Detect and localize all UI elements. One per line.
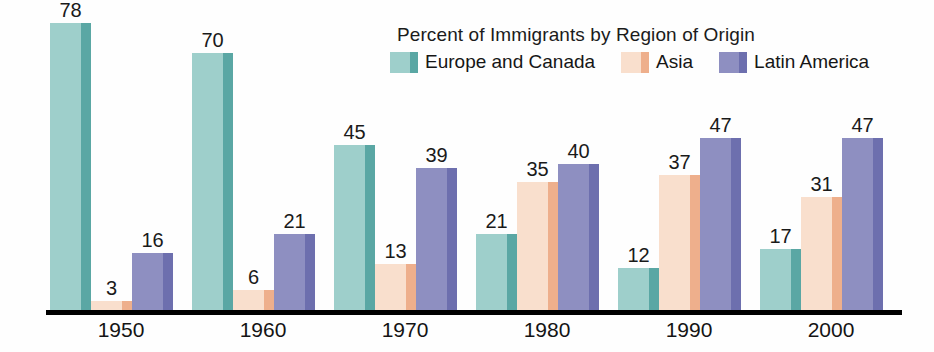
bar-value-label: 39: [425, 145, 447, 165]
bar-slot: 16: [132, 16, 173, 312]
bar-value-label: 21: [485, 211, 507, 231]
bar-slot: 17: [760, 16, 801, 312]
bar-edge: [163, 253, 173, 312]
bar-slot: 13: [375, 16, 416, 312]
bar-group-1990: 123747: [618, 16, 760, 312]
bar-value-label: 17: [769, 226, 791, 246]
bar-value-label: 35: [526, 159, 548, 179]
bar: 6: [233, 290, 274, 312]
bar-edge: [832, 197, 842, 312]
x-axis-baseline: [46, 310, 902, 315]
bar-slot: 31: [801, 16, 842, 312]
x-axis-tick-labels: 195019601970198019902000: [50, 318, 902, 342]
bar-group-1960: 70621: [192, 16, 334, 312]
bar-slot: 45: [334, 16, 375, 312]
bar-slot: 3: [91, 16, 132, 312]
bar: 40: [558, 164, 599, 312]
bar: 31: [801, 197, 842, 312]
bar-value-label: 6: [248, 267, 259, 287]
bar-slot: 21: [476, 16, 517, 312]
bar-edge: [406, 264, 416, 312]
year-label-2000: 2000: [760, 318, 902, 342]
bar-value-label: 12: [627, 245, 649, 265]
bar-slot: 70: [192, 16, 233, 312]
bar: 37: [659, 175, 700, 312]
bar-face: [760, 249, 791, 312]
bar-edge: [507, 234, 517, 312]
bar-face: [700, 138, 731, 312]
bar-edge: [365, 145, 375, 312]
year-label-1970: 1970: [334, 318, 476, 342]
bar-face: [416, 168, 447, 312]
year-label-1950: 1950: [50, 318, 192, 342]
bar-face: [375, 264, 406, 312]
bar-face: [618, 268, 649, 312]
bar: 13: [375, 264, 416, 312]
bar: 45: [334, 145, 375, 312]
bar-slot: 39: [416, 16, 457, 312]
bar-face: [274, 234, 305, 312]
bar-value-label: 16: [141, 230, 163, 250]
bar-face: [558, 164, 589, 312]
year-label-1990: 1990: [618, 318, 760, 342]
year-label-1980: 1980: [476, 318, 618, 342]
bar: 16: [132, 253, 173, 312]
bar-group-1950: 78316: [50, 16, 192, 312]
bar-edge: [264, 290, 274, 312]
bar: 47: [842, 138, 883, 312]
bar-slot: 40: [558, 16, 599, 312]
bar-slot: 37: [659, 16, 700, 312]
bar-value-label: 47: [709, 115, 731, 135]
bar-value-label: 3: [106, 278, 117, 298]
bar-face: [517, 182, 548, 312]
bar-slot: 78: [50, 16, 91, 312]
bar: 12: [618, 268, 659, 312]
bar-face: [50, 23, 81, 312]
bar-group-2000: 173147: [760, 16, 902, 312]
bar-value-label: 13: [384, 241, 406, 261]
bar-edge: [81, 23, 91, 312]
bar: 17: [760, 249, 801, 312]
bar-edge: [589, 164, 599, 312]
bar-value-label: 31: [810, 174, 832, 194]
bar-slot: 21: [274, 16, 315, 312]
bar: 21: [476, 234, 517, 312]
bar: 39: [416, 168, 457, 312]
bar-groups: 7831670621451339213540123747173147: [50, 16, 902, 312]
bar: 21: [274, 234, 315, 312]
bar-edge: [690, 175, 700, 312]
bar: 78: [50, 23, 91, 312]
bar-group-1980: 213540: [476, 16, 618, 312]
bar: 47: [700, 138, 741, 312]
bar-edge: [791, 249, 801, 312]
bar-value-label: 70: [201, 30, 223, 50]
bar-edge: [305, 234, 315, 312]
bar-face: [801, 197, 832, 312]
bar-edge: [873, 138, 883, 312]
bar-face: [842, 138, 873, 312]
bar-edge: [447, 168, 457, 312]
bar-edge: [731, 138, 741, 312]
bar-slot: 12: [618, 16, 659, 312]
bar-chart: Percent of Immigrants by Region of Origi…: [0, 0, 934, 352]
bar-face: [132, 253, 163, 312]
bar-edge: [223, 53, 233, 312]
bar-value-label: 21: [283, 211, 305, 231]
bar-slot: 47: [700, 16, 741, 312]
bar-value-label: 40: [567, 141, 589, 161]
bar-face: [192, 53, 223, 312]
bar-edge: [548, 182, 558, 312]
bar-face: [476, 234, 507, 312]
bar-edge: [649, 268, 659, 312]
bar-value-label: 37: [668, 152, 690, 172]
bar: 35: [517, 182, 558, 312]
bar-face: [334, 145, 365, 312]
bar-value-label: 45: [343, 122, 365, 142]
bar-value-label: 78: [59, 0, 81, 20]
bar-face: [233, 290, 264, 312]
bar-value-label: 47: [851, 115, 873, 135]
bar-face: [659, 175, 690, 312]
bar-slot: 35: [517, 16, 558, 312]
plot-area: 7831670621451339213540123747173147: [50, 16, 902, 312]
year-label-1960: 1960: [192, 318, 334, 342]
